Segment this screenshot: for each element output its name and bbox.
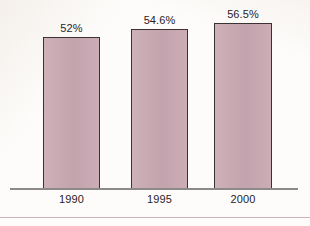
plot-area: 52% 54.6% 56.5% 1990 1995 2000 bbox=[0, 0, 310, 226]
bottom-divider-rule bbox=[0, 217, 310, 218]
x-axis-tick-label: 1995 bbox=[131, 193, 188, 205]
x-axis-line bbox=[10, 188, 298, 190]
x-axis-tick-label: 1990 bbox=[43, 193, 100, 205]
bar-value-label: 52% bbox=[60, 22, 82, 34]
x-axis-tick-label: 2000 bbox=[214, 193, 272, 205]
bar-chart-figure: 52% 54.6% 56.5% 1990 1995 2000 bbox=[0, 0, 310, 226]
bar-value-label: 56.5% bbox=[227, 8, 259, 20]
bar bbox=[43, 37, 100, 189]
bar bbox=[214, 23, 272, 189]
bar-value-label: 54.6% bbox=[144, 14, 176, 26]
bar bbox=[131, 29, 188, 189]
